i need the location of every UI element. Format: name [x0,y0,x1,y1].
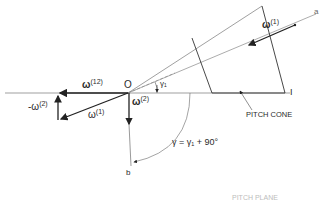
origin-label: O [124,80,132,90]
axis-b-line [129,124,131,166]
neg-omega2-label: -ω(2) [28,100,48,112]
omega2-label: ω(2) [132,95,149,107]
pitch-plane-label: PITCH PLANE [232,194,278,201]
axis-a-label: a [314,8,318,16]
cone-upper-generator [128,6,262,93]
omega12-label: ω(12) [82,78,103,90]
omega1-triangle-label: ω(1) [88,108,104,120]
omega1-tail-dot [294,24,296,26]
omega1-axis-label: ω(1) [262,18,279,30]
axis-b-label: b [126,169,130,177]
gamma1-label: γ₁ [160,80,167,88]
pitch-cone-label: PITCH CONE [246,111,292,119]
instant-point-label: I [290,88,293,97]
gamma-equation-label: γ = γ₁ + 90° [172,138,218,147]
pitch-cone-pointer [240,91,252,110]
